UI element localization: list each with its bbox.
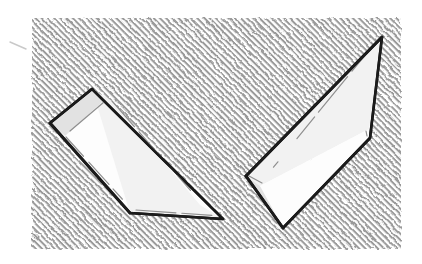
illustration-figure bbox=[0, 0, 422, 264]
wedges-line-drawing bbox=[0, 0, 422, 264]
